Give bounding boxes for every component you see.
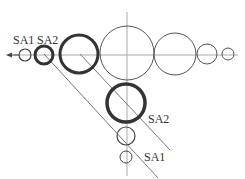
circle-sa1-bottom xyxy=(120,151,132,163)
label-sa2-bottom: SA2 xyxy=(148,112,169,126)
circle-right-2 xyxy=(197,44,217,64)
diagram-canvas: SA1 SA2 SA2 SA1 xyxy=(0,0,245,179)
label-sa1-bottom: SA1 xyxy=(144,150,165,164)
circle-right-3 xyxy=(222,48,234,60)
label-sa2-top: SA2 xyxy=(37,33,58,47)
circle-thick-large xyxy=(60,35,98,73)
circle-right-1 xyxy=(154,33,196,75)
label-sa1-top: SA1 xyxy=(13,33,34,47)
